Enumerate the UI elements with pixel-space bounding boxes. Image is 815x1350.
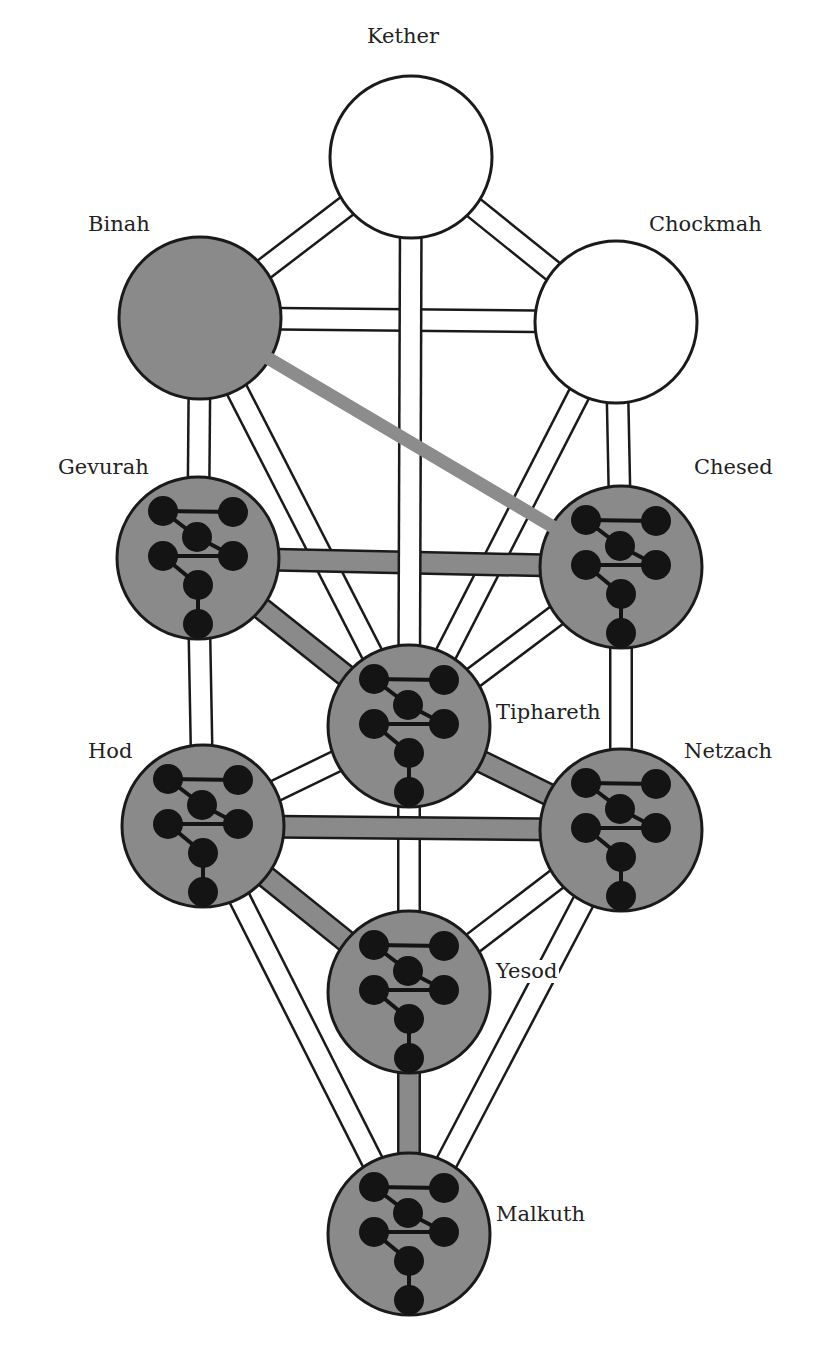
label-yesod: Yesod bbox=[494, 960, 559, 983]
label-netzach: Netzach bbox=[682, 740, 774, 763]
sephira-kether bbox=[330, 76, 492, 238]
sephira-yesod bbox=[328, 911, 490, 1073]
label-binah: Binah bbox=[86, 213, 152, 236]
label-tiphareth: Tiphareth bbox=[494, 701, 603, 724]
label-gevurah: Gevurah bbox=[56, 456, 151, 479]
sephira-gevurah bbox=[117, 477, 279, 639]
label-chesed: Chesed bbox=[692, 456, 775, 479]
sephira-chesed bbox=[540, 486, 702, 648]
sephira-chockmah bbox=[535, 241, 697, 403]
label-chockmah: Chockmah bbox=[647, 213, 764, 236]
tree-of-life-diagram bbox=[0, 0, 815, 1350]
label-kether: Kether bbox=[365, 25, 441, 48]
sephira-netzach bbox=[540, 749, 702, 911]
sephira-hod bbox=[122, 745, 284, 907]
sephira-binah bbox=[119, 237, 281, 399]
label-malkuth: Malkuth bbox=[494, 1203, 587, 1226]
label-hod: Hod bbox=[86, 740, 134, 763]
sephira-tiphareth bbox=[328, 645, 490, 807]
sephira-malkuth bbox=[328, 1153, 490, 1315]
